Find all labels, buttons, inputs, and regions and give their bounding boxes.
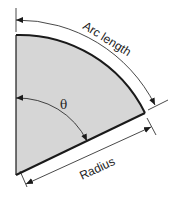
theta-label: θ	[60, 98, 67, 112]
radius-extension-line-bottom	[20, 171, 27, 187]
radius-label: Radius	[77, 154, 117, 182]
arc-extension-line-right	[148, 100, 168, 110]
sector-diagram: Arc length θ Radius	[0, 0, 178, 203]
radius-extension-line-right	[147, 118, 156, 135]
